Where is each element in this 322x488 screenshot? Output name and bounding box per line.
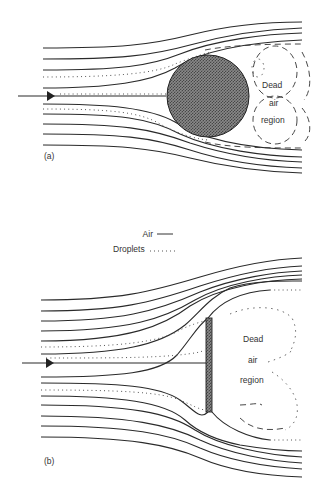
wake-boundary-lower-b: [212, 412, 270, 440]
dead-air-label-line2-a: air: [269, 98, 279, 108]
legend: Air Droplets: [113, 229, 175, 254]
flow-arrow-a: [47, 91, 55, 101]
panel-a: Dead air region (a): [18, 22, 310, 173]
panel-label-a: (a): [44, 151, 55, 161]
flat-plate-obstacle: [206, 318, 212, 412]
wake-boundary-upper-a: [205, 44, 302, 50]
dead-air-label-line2-b: air: [248, 355, 258, 365]
dead-air-eddies-a: [252, 46, 310, 144]
wake-boundary-upper-b: [208, 290, 270, 318]
legend-air-label: Air: [143, 229, 154, 239]
droplet-path-upper-b: [41, 320, 208, 347]
flow-arrow-b: [46, 358, 54, 368]
panel-b: Dead air region (b): [22, 258, 302, 477]
dead-air-label-line1-b: Dead: [243, 334, 264, 344]
legend-droplets-label: Droplets: [113, 244, 145, 254]
dead-air-eddies-b: [230, 308, 297, 430]
panel-label-b: (b): [44, 456, 55, 466]
dead-air-label-line3-b: region: [240, 375, 264, 385]
dead-air-label-line3-a: region: [261, 115, 285, 125]
sphere-obstacle: [167, 55, 249, 137]
air-streamlines-upper-b: [41, 258, 302, 377]
dead-air-label-line1-a: Dead: [262, 80, 283, 90]
flow-diagram: Dead air region (a) Air Droplets: [0, 0, 322, 488]
